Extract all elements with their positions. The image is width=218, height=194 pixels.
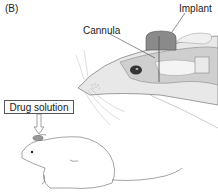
rat-body [22,135,182,189]
drug-arrow-icon [34,114,44,134]
implant-label: Implant [179,3,212,14]
cannula-label: Cannula [83,25,120,36]
implant-icon [146,31,176,50]
drug-solution-label: Drug solution [4,100,74,114]
panel-label: (B) [5,3,18,14]
